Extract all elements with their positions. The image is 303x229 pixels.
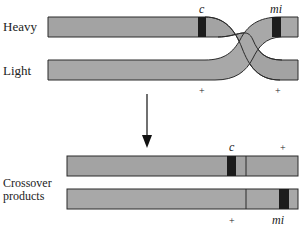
c-label-top: c	[199, 2, 205, 16]
crossover-label-line2: products	[3, 189, 45, 203]
recombination-diagram: Heavy Light c mi + + Crossover products …	[0, 0, 303, 229]
plus-label-top-right: +	[275, 85, 281, 96]
mi-label-product2: mi	[272, 213, 284, 227]
down-arrow-icon	[142, 94, 152, 148]
crossover-product-2	[67, 189, 298, 209]
c-label-product1: c	[229, 140, 235, 154]
crossover-label-line1: Crossover	[3, 176, 52, 190]
mi-label-top: mi	[270, 2, 282, 16]
crossover-product-1	[67, 156, 298, 176]
mi-marker-product2	[279, 189, 289, 209]
mi-marker-top	[272, 17, 281, 37]
c-marker-top	[198, 17, 206, 37]
plus-label-product1: +	[280, 142, 286, 153]
c-marker-product1	[227, 156, 236, 176]
plus-label-top-left: +	[199, 85, 205, 96]
plus-label-product2: +	[229, 215, 235, 226]
heavy-label: Heavy	[3, 19, 37, 34]
light-label: Light	[3, 63, 32, 78]
